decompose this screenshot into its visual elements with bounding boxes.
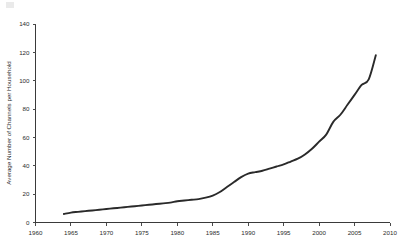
x-tick-label: 2005 [348,229,362,236]
x-tick-label: 1990 [241,229,255,236]
x-tick-label: 2000 [312,229,326,236]
y-tick-label: 40 [23,162,30,169]
x-tick-label: 1970 [100,229,114,236]
y-tick-label: 100 [19,77,30,84]
x-tick-label: 1985 [206,229,220,236]
y-tick-label: 80 [23,105,30,112]
line-chart: 020406080100120140 196019651970197519801… [0,0,415,242]
y-tick-label: 140 [19,20,30,27]
x-tick-label: 1995 [277,229,291,236]
x-tick-label: 2010 [383,229,397,236]
y-tick-label: 20 [23,190,30,197]
x-tick-label: 1965 [64,229,78,236]
y-axis-group: 020406080100120140 [19,20,35,226]
x-tick-label: 1980 [170,229,184,236]
x-axis-group: 1960196519701975198019851990199520002005… [29,223,398,236]
corner-artifact [6,2,14,8]
y-tick-label: 0 [26,219,30,226]
x-tick-label: 1975 [135,229,149,236]
data-series-line [64,55,376,214]
y-axis-title: Average Number of Channels per Household [5,61,12,185]
y-tick-label: 60 [23,134,30,141]
x-tick-label: 1960 [29,229,43,236]
y-tick-labels: 020406080100120140 [19,20,30,226]
x-tick-labels: 1960196519701975198019851990199520002005… [29,229,398,236]
chart-svg: 020406080100120140 196019651970197519801… [0,0,415,242]
y-tick-label: 120 [19,49,30,56]
